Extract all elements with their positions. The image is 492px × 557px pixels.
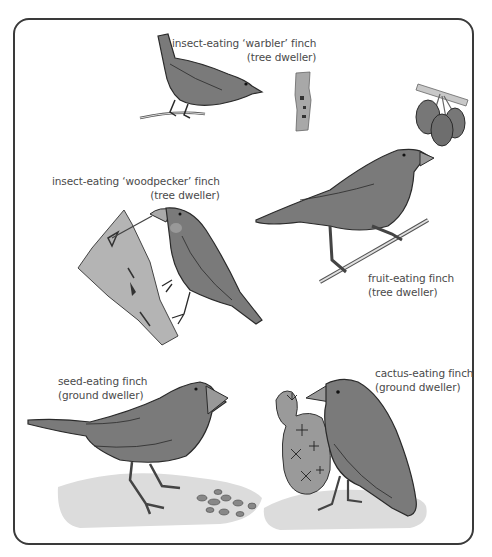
- fruit-eating-finch-label: fruit-eating finch (tree dweller): [368, 271, 454, 299]
- cactus-eating-finch-icon: [264, 379, 427, 530]
- seed-eating-finch-habitat: (ground dweller): [58, 388, 147, 402]
- fruit-eating-finch-icon: [256, 149, 434, 282]
- warbler-finch-name: insect-eating ‘warbler’ finch: [172, 36, 316, 50]
- woodpecker-finch-habitat: (tree dweller): [52, 188, 220, 202]
- woodpecker-finch-name: insect-eating ‘woodpecker’ finch: [52, 174, 220, 188]
- seed-eating-finch-label: seed-eating finch (ground dweller): [58, 374, 147, 402]
- fruit-cluster-icon: [416, 84, 468, 146]
- cactus-eating-finch-label: cactus-eating finch (ground dweller): [375, 366, 473, 394]
- woodpecker-finch-label: insect-eating ‘woodpecker’ finch (tree d…: [52, 174, 220, 202]
- woodpecker-finch-icon: [78, 208, 262, 345]
- seed-eating-finch-icon: [28, 382, 262, 528]
- cactus-eating-finch-name: cactus-eating finch: [375, 366, 473, 380]
- fruit-eating-finch-name: fruit-eating finch: [368, 271, 454, 285]
- warbler-finch-habitat: (tree dweller): [172, 50, 316, 64]
- warbler-finch-label: insect-eating ‘warbler’ finch (tree dwel…: [172, 36, 316, 64]
- seed-eating-finch-name: seed-eating finch: [58, 374, 147, 388]
- cactus-eating-finch-habitat: (ground dweller): [375, 380, 473, 394]
- bark-strip-icon: [295, 72, 311, 131]
- fruit-eating-finch-habitat: (tree dweller): [368, 285, 454, 299]
